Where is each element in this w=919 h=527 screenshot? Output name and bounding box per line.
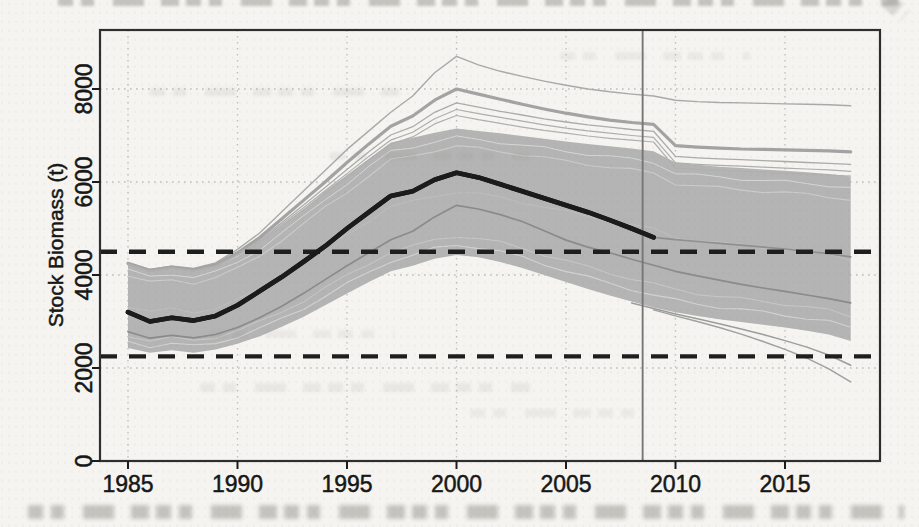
y-axis-title: Stock Biomass (t) <box>44 163 67 328</box>
stock-biomass-chart: 1985199019952000200520102015020004000600… <box>0 0 919 527</box>
x-tick-label: 1995 <box>321 471 372 497</box>
trajectory-envelope-band <box>128 129 851 353</box>
x-tick-label: 2010 <box>650 471 701 497</box>
x-axis-ticks <box>128 461 785 469</box>
x-tick-label: 1985 <box>102 471 153 497</box>
y-tick-label: 8000 <box>71 63 97 114</box>
x-tick-label: 2015 <box>759 471 810 497</box>
y-tick-label: 0 <box>71 455 97 468</box>
x-tick-label: 2000 <box>431 471 482 497</box>
x-tick-label: 2005 <box>540 471 591 497</box>
x-axis-labels: 1985199019952000200520102015 <box>102 471 810 497</box>
y-tick-label: 6000 <box>71 156 97 207</box>
y-tick-label: 4000 <box>71 249 97 300</box>
y-axis-labels: 02000400060008000 <box>71 63 97 467</box>
scanned-document-page: 1985199019952000200520102015020004000600… <box>0 0 919 527</box>
x-tick-label: 1990 <box>212 471 263 497</box>
y-tick-label: 2000 <box>71 342 97 393</box>
